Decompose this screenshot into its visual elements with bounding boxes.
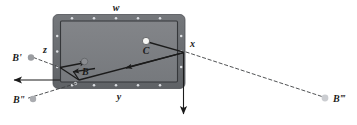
label-w: w bbox=[113, 2, 120, 13]
diagram-root: w x y z C B B' B" B‴ bbox=[0, 0, 357, 125]
dashed-line-x-to-btripleprime bbox=[186, 52, 325, 98]
ball-b-triple-prime bbox=[322, 95, 329, 102]
label-ball-b-triple-prime: B‴ bbox=[332, 93, 346, 104]
label-ball-b: B bbox=[81, 66, 89, 77]
ball-b-prime bbox=[28, 54, 34, 60]
dashed-line-bdoubleprime-to-corner bbox=[29, 84, 77, 99]
label-y: y bbox=[116, 91, 122, 102]
label-x: x bbox=[189, 38, 195, 49]
label-ball-c: C bbox=[143, 45, 150, 56]
table-cloth bbox=[61, 21, 178, 82]
ball-b bbox=[81, 58, 88, 65]
label-ball-b-double-prime: B" bbox=[12, 94, 25, 105]
billiards-diagram-svg: w x y z C B B' B" B‴ bbox=[0, 0, 357, 125]
label-z: z bbox=[42, 44, 47, 55]
pool-table bbox=[53, 15, 185, 89]
label-ball-b-prime: B' bbox=[11, 52, 22, 63]
ball-b-double-prime bbox=[30, 96, 36, 102]
